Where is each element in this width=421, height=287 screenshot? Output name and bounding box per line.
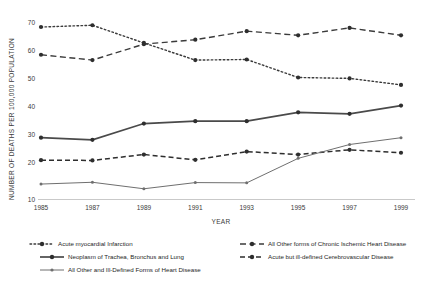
legend-item[interactable]: All Other and Ill-Defined Forms of Heart… — [40, 266, 201, 273]
data-point — [399, 103, 403, 107]
series-line — [41, 106, 401, 140]
data-point — [142, 152, 146, 156]
series-layer — [39, 23, 403, 190]
x-tick-label: 1991 — [188, 204, 203, 211]
legend-marker-dot — [50, 255, 54, 259]
data-point — [245, 29, 249, 33]
series-line — [41, 138, 401, 189]
y-tick-label: 10 — [28, 196, 36, 203]
data-point — [245, 119, 249, 123]
legend-item[interactable]: Acute but ill-defined Cerebrovascular Di… — [240, 253, 394, 260]
series-4 — [40, 136, 403, 190]
series-line — [41, 150, 401, 161]
data-point — [245, 181, 248, 184]
series-line — [41, 25, 401, 85]
legend-label: All Other and Ill-Defined Forms of Heart… — [68, 266, 201, 273]
data-point — [194, 181, 197, 184]
series-2 — [39, 103, 403, 141]
data-point — [296, 75, 300, 79]
data-point — [193, 38, 197, 42]
x-tick-label: 1997 — [342, 204, 357, 211]
data-point — [142, 42, 146, 46]
data-point — [142, 187, 145, 190]
series-1 — [39, 26, 403, 62]
y-tick-label: 30 — [28, 131, 36, 138]
data-point — [347, 26, 351, 30]
line-chart: 70 60 50 40 30 20 10 NUMBER OF DEATHS PE… — [0, 0, 421, 287]
data-point — [399, 33, 403, 37]
data-point — [348, 143, 351, 146]
legend-marker-dot — [250, 255, 254, 259]
legend-marker-dot — [250, 242, 254, 246]
y-tick-label: 20 — [28, 159, 36, 166]
data-point — [39, 25, 43, 29]
y-tick-label: 60 — [28, 47, 36, 54]
data-point — [90, 138, 94, 142]
data-point — [142, 121, 146, 125]
legend-item[interactable]: Acute myocardial Infarction — [30, 240, 133, 247]
series-0 — [39, 23, 403, 87]
legend-marker-dot — [50, 268, 53, 271]
y-axis-ticks: 70 60 50 40 30 20 10 — [28, 19, 36, 203]
data-point — [193, 158, 197, 162]
data-point — [399, 83, 403, 87]
data-point — [91, 181, 94, 184]
series-line — [41, 28, 401, 60]
chart-canvas: 70 60 50 40 30 20 10 NUMBER OF DEATHS PE… — [0, 0, 421, 287]
legend-label: Acute but ill-defined Cerebrovascular Di… — [268, 253, 394, 260]
chart-legend: Acute myocardial InfarctionAll Other for… — [30, 240, 407, 273]
x-axis-title: YEAR — [212, 218, 231, 225]
x-tick-label: 1987 — [85, 204, 100, 211]
x-tick-label: 1989 — [137, 204, 152, 211]
data-point — [40, 183, 43, 186]
data-point — [90, 158, 94, 162]
legend-label: Neoplasm of Trachea, Bronchus and Lung — [68, 253, 184, 260]
legend-label: Acute myocardial Infarction — [58, 240, 133, 247]
x-axis-ticks: 1985 1987 1989 1991 1993 1995 1997 1999 — [34, 204, 409, 211]
data-point — [399, 151, 403, 155]
data-point — [245, 149, 249, 153]
y-tick-label: 50 — [28, 75, 36, 82]
data-point — [347, 148, 351, 152]
x-tick-label: 1995 — [291, 204, 306, 211]
data-point — [296, 110, 300, 114]
x-tick-label: 1985 — [34, 204, 49, 211]
data-point — [400, 136, 403, 139]
data-point — [39, 136, 43, 140]
data-point — [245, 57, 249, 61]
legend-item[interactable]: All Other forms of Chronic Ischemic Hear… — [240, 240, 407, 247]
x-tick-label: 1993 — [239, 204, 254, 211]
data-point — [296, 152, 300, 156]
y-tick-label: 40 — [28, 103, 36, 110]
y-tick-label: 70 — [28, 19, 36, 26]
data-point — [297, 157, 300, 160]
data-point — [347, 76, 351, 80]
legend-item[interactable]: Neoplasm of Trachea, Bronchus and Lung — [40, 253, 184, 260]
legend-marker-dot — [40, 242, 44, 246]
data-point — [90, 58, 94, 62]
series-3 — [39, 148, 403, 163]
y-axis-title: NUMBER OF DEATHS PER 100,000 POPULATION — [8, 38, 15, 200]
data-point — [296, 33, 300, 37]
data-point — [39, 158, 43, 162]
legend-label: All Other forms of Chronic Ischemic Hear… — [268, 240, 407, 247]
x-tick-label: 1999 — [394, 204, 409, 211]
data-point — [193, 58, 197, 62]
data-point — [193, 119, 197, 123]
data-point — [39, 53, 43, 57]
data-point — [90, 23, 94, 27]
data-point — [347, 112, 351, 116]
